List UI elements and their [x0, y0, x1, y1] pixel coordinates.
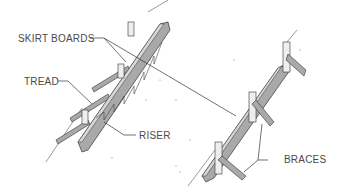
skirt-boards-leader-left	[90, 38, 126, 62]
left-stake-bottom	[82, 110, 88, 124]
skirt-boards-label: SKIRT BOARDS	[18, 34, 95, 44]
slope-line-left-top	[148, 0, 168, 12]
braces-leader-middle	[258, 124, 262, 160]
tread-label: TREAD	[24, 77, 59, 87]
riser-leader	[104, 122, 136, 135]
riser-label: RISER	[139, 131, 171, 141]
tread-leader	[58, 81, 92, 104]
braces-label: BRACES	[284, 155, 326, 165]
stair-form-diagram: SKIRT BOARDS TREAD RISER BRACES	[0, 0, 340, 196]
slope-line-right-top	[287, 30, 297, 42]
left-stake-top	[128, 22, 134, 36]
braces-leader-bottom	[244, 160, 268, 172]
left-stake-middle	[118, 64, 124, 78]
diagram-canvas	[0, 0, 340, 196]
